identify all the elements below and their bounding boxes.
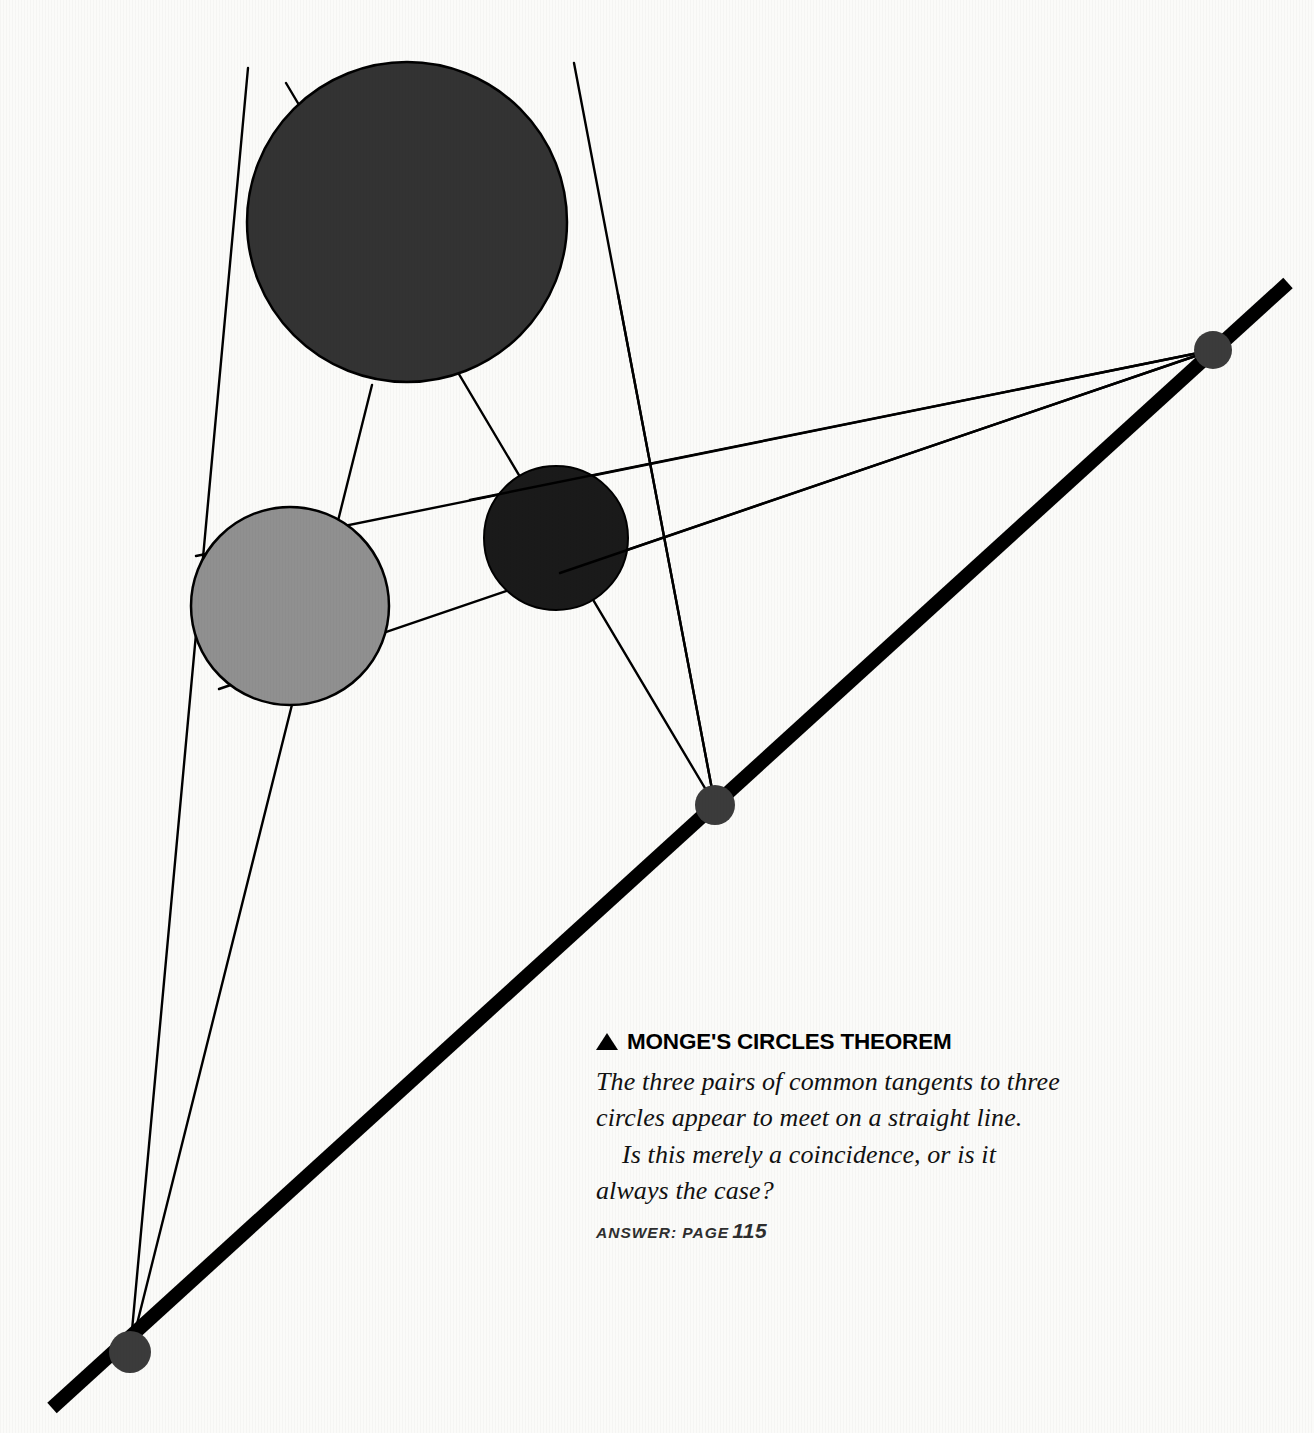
caption-block: MONGE'S CIRCLES THEOREM The three pairs … — [596, 1030, 1066, 1243]
center-dot-middle — [695, 785, 735, 825]
center-dot-top-right — [1194, 331, 1232, 369]
large-dark-circle — [247, 62, 567, 382]
caption-paragraph-2: Is this merely a coincidence, or is it a… — [596, 1137, 1066, 1210]
figure-page: MONGE'S CIRCLES THEOREM The three pairs … — [0, 0, 1314, 1433]
caption-paragraph-1: The three pairs of common tangents to th… — [596, 1064, 1066, 1137]
tangent-overlay-m-2 — [618, 294, 715, 805]
answer-reference: ANSWER: PAGE115 — [596, 1219, 1066, 1243]
caption-heading: MONGE'S CIRCLES THEOREM — [596, 1030, 1066, 1055]
tangent-line-bl-1 — [130, 68, 248, 1352]
answer-page-number: 115 — [732, 1219, 767, 1242]
center-dot-bottom-left — [109, 1331, 151, 1373]
circles-group — [191, 62, 628, 705]
small-black-circle — [484, 466, 628, 610]
triangle-up-icon — [596, 1033, 618, 1050]
caption-heading-text: MONGE'S CIRCLES THEOREM — [627, 1030, 952, 1055]
gray-circle — [191, 507, 389, 705]
answer-label: ANSWER: PAGE — [596, 1224, 729, 1241]
